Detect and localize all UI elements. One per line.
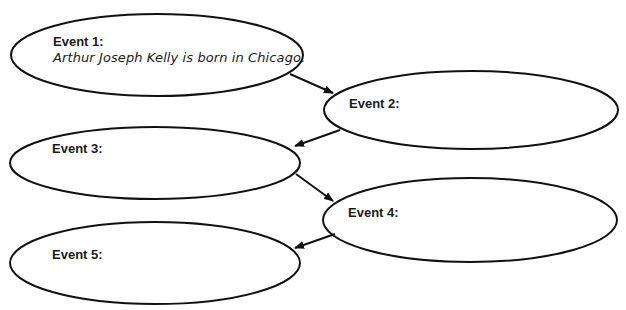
event-4-label: Event 4:	[348, 205, 399, 220]
event-1-label: Event 1:	[53, 34, 104, 49]
arrow-4-to-5	[295, 234, 335, 248]
event-3-label: Event 3:	[52, 141, 103, 156]
event-1-text: Arthur Joseph Kelly is born in Chicago.	[53, 50, 305, 65]
arrow-3-to-4	[296, 174, 333, 201]
event-5-ellipse	[10, 222, 300, 304]
event-4-ellipse	[323, 178, 617, 262]
arrow-2-to-3	[295, 130, 340, 146]
event-2-label: Event 2:	[349, 96, 400, 111]
arrow-1-to-2	[290, 74, 333, 93]
event-5-label: Event 5:	[52, 247, 103, 262]
event-3-ellipse	[10, 127, 300, 199]
